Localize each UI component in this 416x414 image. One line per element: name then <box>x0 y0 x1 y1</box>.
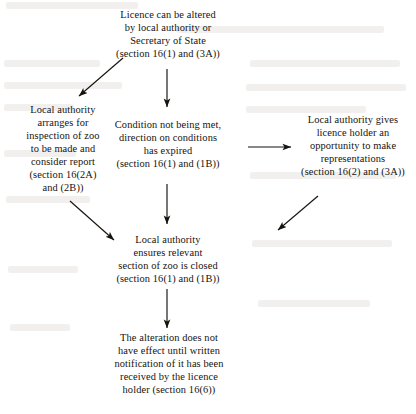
edge-right-to-closure <box>278 196 318 230</box>
node-line: The alteration does not <box>96 331 242 344</box>
node-line: Licence can be altered <box>104 8 232 21</box>
node-line: received by the licence <box>96 370 242 383</box>
node-local-authority-ensures-section-closed: Local authority ensures relevant section… <box>98 233 238 285</box>
node-line: Local authority <box>8 103 118 116</box>
node-line: opportunity to make <box>292 139 414 152</box>
node-line: (section 16(1) and (3A)) <box>104 47 232 60</box>
node-condition-not-being-met: Condition not being met, direction on co… <box>96 118 240 170</box>
node-line: (section 16(1) and (1B)) <box>98 272 238 285</box>
node-line: Local authority <box>98 233 238 246</box>
node-line: has expired <box>96 144 240 157</box>
node-line: have effect until written <box>96 344 242 357</box>
node-line: notification of it has been <box>96 357 242 370</box>
node-licence-can-be-altered: Licence can be altered by local authorit… <box>104 8 232 60</box>
node-line: by local authority or <box>104 21 232 34</box>
flowchart-diagram: Licence can be altered by local authorit… <box>0 0 416 414</box>
node-line: section of zoo is closed <box>98 259 238 272</box>
node-alteration-effect-on-notification: The alteration does not have effect unti… <box>96 331 242 396</box>
node-line: Secretary of State <box>104 34 232 47</box>
node-line: direction on conditions <box>96 131 240 144</box>
node-line: Local authority gives <box>292 113 414 126</box>
node-line: Condition not being met, <box>96 118 240 131</box>
node-line: and (2B)) <box>8 181 118 194</box>
node-opportunity-to-make-representations: Local authority gives licence holder an … <box>292 113 414 178</box>
node-line: ensures relevant <box>98 246 238 259</box>
node-line: (section 16(1) and (1B)) <box>96 157 240 170</box>
node-line: (section 16(2) and (3A)) <box>292 165 414 178</box>
node-line: representations <box>292 152 414 165</box>
node-line: licence holder an <box>292 126 414 139</box>
node-line: holder (section 16(6)) <box>96 383 242 396</box>
edge-top-to-left <box>79 58 123 96</box>
